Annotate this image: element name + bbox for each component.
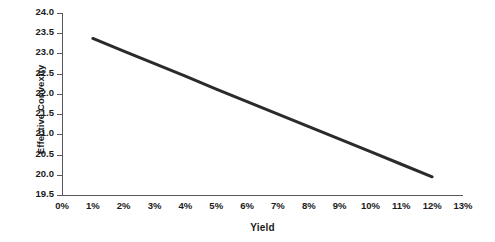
y-tick-mark [57, 195, 62, 196]
y-tick-label: 21.5 [36, 107, 55, 118]
y-tick-label: 20.0 [36, 168, 55, 179]
x-tick-label: 10% [361, 200, 380, 211]
x-tick-label: 4% [179, 200, 193, 211]
y-tick-label: 23.0 [36, 46, 55, 57]
x-tick-label: 8% [302, 200, 316, 211]
x-tick-label: 5% [209, 200, 223, 211]
x-tick-label: 7% [271, 200, 285, 211]
x-tick-label: 9% [333, 200, 347, 211]
x-tick-label: 3% [148, 200, 162, 211]
x-tick-label: 2% [117, 200, 131, 211]
convexity-yield-chart: Effective Convexity 19.520.020.521.021.5… [0, 0, 495, 242]
x-tick-label: 11% [392, 200, 411, 211]
y-tick-label: 20.5 [36, 148, 55, 159]
x-tick-label: 1% [86, 200, 100, 211]
y-tick-label: 21.0 [36, 127, 55, 138]
x-tick-label: 13% [453, 200, 472, 211]
x-tick-label: 0% [55, 200, 69, 211]
x-tick-label: 12% [423, 200, 442, 211]
plot-area: 19.520.020.521.021.522.022.523.023.524.0… [62, 13, 463, 195]
y-tick-label: 22.5 [36, 67, 55, 78]
y-tick-label: 19.5 [36, 188, 55, 199]
series-polyline [93, 38, 432, 176]
y-tick-label: 24.0 [36, 6, 55, 17]
series-line-effective-convexity [62, 13, 463, 195]
x-axis-spine [62, 195, 463, 196]
x-axis-title: Yield [62, 222, 463, 233]
y-tick-label: 22.0 [36, 87, 55, 98]
x-tick-label: 6% [240, 200, 254, 211]
y-tick-label: 23.5 [36, 26, 55, 37]
